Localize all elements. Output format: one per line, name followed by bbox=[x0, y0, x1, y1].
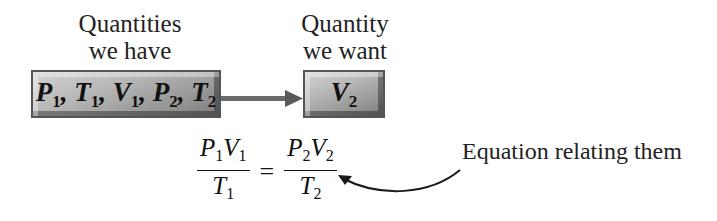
equals-sign: = bbox=[260, 157, 275, 187]
curved-arrow-icon bbox=[342, 170, 460, 191]
combined-gas-law-equation: P1V1 T1 = P2V2 T2 bbox=[193, 134, 341, 209]
left-fraction: P1V1 T1 bbox=[197, 134, 250, 209]
arrowhead-icon bbox=[285, 90, 303, 107]
equation-caption: Equation relating them bbox=[462, 138, 682, 165]
quantity-we-want-box: V2 bbox=[303, 70, 385, 118]
want-variable: V2 bbox=[331, 77, 358, 112]
right-fraction: P2V2 T2 bbox=[284, 134, 337, 209]
